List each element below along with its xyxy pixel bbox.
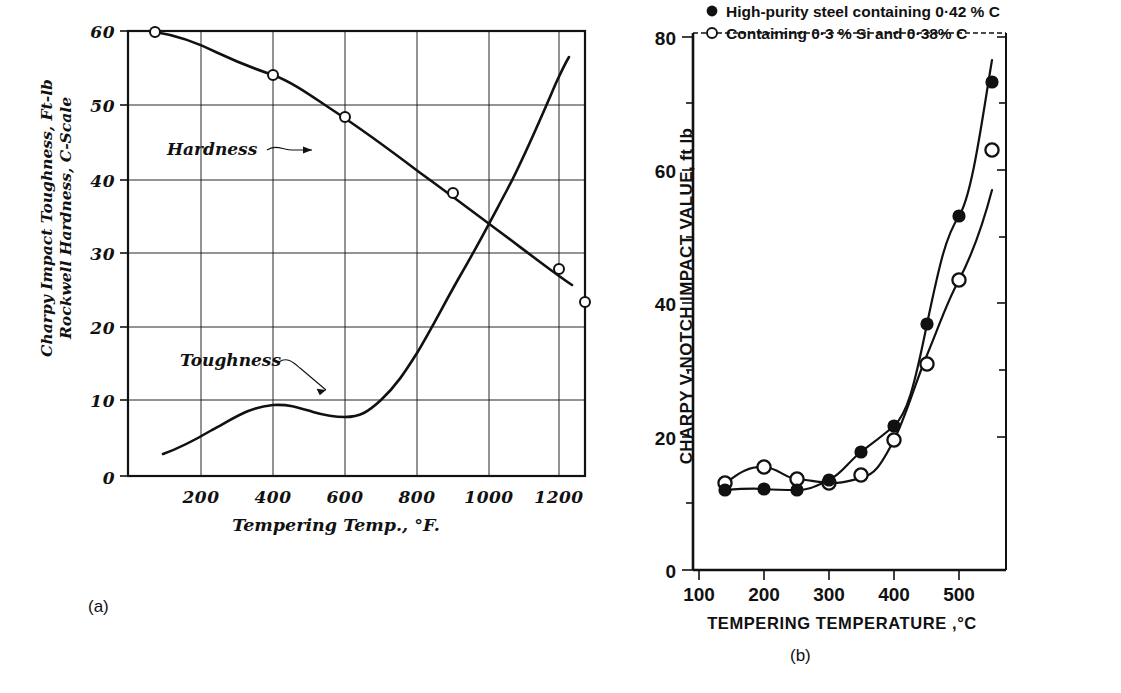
panel-b-y-ticklabels: 0 20 40 60 80 <box>655 28 676 582</box>
panel-b-ytick-60: 60 <box>655 161 676 182</box>
legend-filled-circle-marker <box>707 6 718 17</box>
panel-a-xtick-800: 800 <box>398 487 436 507</box>
panel-b-ytick-40: 40 <box>655 294 676 315</box>
panel-b-series-open-line <box>725 190 992 483</box>
panel-b-ytick-80: 80 <box>655 28 676 49</box>
panel-a-figure: Charpy Impact Toughness, Ft-lb Rockwell … <box>0 0 620 693</box>
panel-a-ytick-40: 40 <box>90 171 115 191</box>
panel-a-toughness-leader <box>279 360 326 390</box>
legend-open-circle-marker <box>707 28 717 38</box>
panel-b-label: (b) <box>790 646 811 666</box>
panel-a-label: (a) <box>88 597 109 617</box>
panel-a-plot: 60 50 40 30 20 10 0 200 400 600 800 1000… <box>0 0 620 560</box>
panel-a-ytick-50: 50 <box>90 96 115 116</box>
panel-b-xtick-400: 400 <box>878 584 910 605</box>
panel-b-x-ticks <box>699 570 959 580</box>
panel-a-xtick-1200: 1200 <box>534 487 583 507</box>
panel-a-y-ticks <box>120 31 128 476</box>
panel-a-hardness-label: Hardness <box>166 139 258 159</box>
panel-a-xlabel: Tempering Temp., °F. <box>232 515 440 535</box>
panel-b-xtick-300: 300 <box>813 584 845 605</box>
panel-b-ylabel-wrap: CHARPY V-NOTCH IMPACT VALUE, ft lb <box>677 66 703 526</box>
panel-a-ytick-30: 30 <box>90 244 115 264</box>
panel-a-xtick-600: 600 <box>327 487 364 507</box>
panel-a-y-ticklabels: 60 50 40 30 20 10 0 <box>89 22 115 488</box>
panel-b-legend: High-purity steel containing 0·42 % C Co… <box>707 3 1000 42</box>
panel-a-ytick-20: 20 <box>89 318 115 338</box>
panel-b-figure: CHARPY V-NOTCH IMPACT VALUE, ft lb <box>620 0 1121 693</box>
panel-a-ylabel-group: Charpy Impact Toughness, Ft-lb Rockwell … <box>38 68 78 368</box>
legend-item-0-label: High-purity steel containing 0·42 % C <box>726 3 1000 20</box>
panel-b-xtick-100: 100 <box>683 584 715 605</box>
panel-b-ytick-0: 0 <box>665 561 676 582</box>
panel-a-ylabel-line2: Rockwell Hardness, C-Scale <box>57 68 76 368</box>
panel-a-xtick-200: 200 <box>182 487 220 507</box>
panel-b-ytick-20: 20 <box>655 428 676 449</box>
panel-a-hardness-arrowhead <box>303 146 312 153</box>
panel-a-ylabel-line1: Charpy Impact Toughness, Ft-lb <box>38 68 57 368</box>
panel-a-axes-frame <box>128 31 585 476</box>
panel-a-hardness-markers <box>150 27 590 307</box>
panel-a-xtick-1000: 1000 <box>464 487 513 507</box>
panel-a-ytick-0: 0 <box>103 468 115 488</box>
panel-b-xlabel: TEMPERING TEMPERATURE ,°C <box>707 614 977 632</box>
legend-item-1-label: Containing 0·3 % Si and 0·38% C <box>726 25 967 42</box>
panel-a-toughness-label: Toughness <box>180 350 281 370</box>
panel-b-series-open-markers <box>718 143 998 489</box>
panel-b-series-filled-line <box>725 60 992 490</box>
panel-a-ytick-10: 10 <box>90 391 115 411</box>
panel-a-x-ticklabels: 200 400 600 800 1000 1200 <box>182 487 584 507</box>
panel-b-right-ticks <box>997 37 1006 437</box>
panel-a-ytick-60: 60 <box>90 22 115 42</box>
panel-b-x-ticklabels: 100 200 300 400 500 <box>683 584 975 605</box>
panel-b-ylabel: CHARPY V-NOTCH IMPACT VALUE, ft lb <box>677 128 696 465</box>
panel-b-xtick-500: 500 <box>943 584 975 605</box>
panel-a-toughness-curve <box>163 57 569 454</box>
panel-b-xtick-200: 200 <box>748 584 780 605</box>
panel-a-toughness-arrowhead <box>317 389 326 395</box>
panel-a-xtick-400: 400 <box>255 487 292 507</box>
